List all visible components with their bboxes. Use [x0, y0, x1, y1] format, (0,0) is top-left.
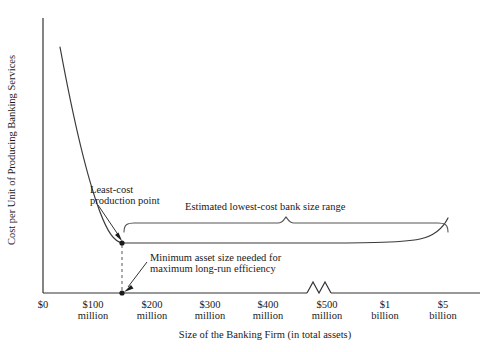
x-tick-amount-4: $400 — [258, 299, 279, 310]
average-cost-curve — [60, 47, 448, 243]
chart-plot-area — [0, 0, 498, 352]
annotation-least-cost-line1: Least-cost — [90, 184, 133, 195]
minimum-asset-size-point-marker — [119, 290, 124, 295]
axis-break-zigzag-icon — [307, 282, 331, 293]
x-tick-unit-4: million — [253, 310, 283, 321]
x-tick-label-5: $500 million — [312, 299, 342, 322]
x-tick-label-4: $400 million — [253, 299, 283, 322]
x-tick-unit-3: million — [195, 310, 225, 321]
x-tick-label-0: $0 — [38, 299, 49, 310]
annotation-least-cost-production-point: Least-cost production point — [90, 184, 160, 207]
x-tick-unit-7: billion — [429, 310, 456, 321]
annotation-estimated-range-text: Estimated lowest-cost bank size range — [185, 201, 345, 212]
x-tick-amount-3: $300 — [200, 299, 221, 310]
x-tick-amount-1: $100 — [83, 299, 104, 310]
banking-cost-curve-figure: Cost per Unit of Producing Banking Servi… — [0, 0, 498, 352]
x-tick-amount-6: $1 — [380, 299, 391, 310]
x-tick-unit-2: million — [137, 310, 167, 321]
x-tick-label-2: $200 million — [137, 299, 167, 322]
x-tick-label-3: $300 million — [195, 299, 225, 322]
x-tick-label-6: $1 billion — [371, 299, 398, 322]
estimated-range-brace — [124, 217, 448, 232]
annotation-minimum-asset-size: Minimum asset size needed for maximum lo… — [150, 252, 281, 275]
x-tick-label-7: $5 billion — [429, 299, 456, 322]
x-tick-amount-5: $500 — [317, 299, 338, 310]
x-tick-amount-0: $0 — [38, 299, 49, 310]
annotation-estimated-range: Estimated lowest-cost bank size range — [185, 201, 345, 212]
x-tick-unit-6: billion — [371, 310, 398, 321]
annotation-min-asset-line1: Minimum asset size needed for — [150, 252, 281, 263]
x-tick-unit-1: million — [78, 310, 108, 321]
x-tick-label-1: $100 million — [78, 299, 108, 322]
annotation-min-asset-line2: maximum long-run efficiency — [150, 263, 281, 274]
min-asset-annotation-arrow-line — [128, 262, 147, 287]
x-tick-amount-7: $5 — [438, 299, 449, 310]
x-tick-amount-2: $200 — [142, 299, 163, 310]
least-cost-production-point-marker — [119, 240, 124, 245]
y-axis-title: Cost per Unit of Producing Banking Servi… — [6, 55, 17, 245]
x-axis-title: Size of the Banking Firm (in total asset… — [179, 329, 351, 340]
annotation-least-cost-line2: production point — [90, 195, 160, 206]
x-tick-unit-5: million — [312, 310, 342, 321]
